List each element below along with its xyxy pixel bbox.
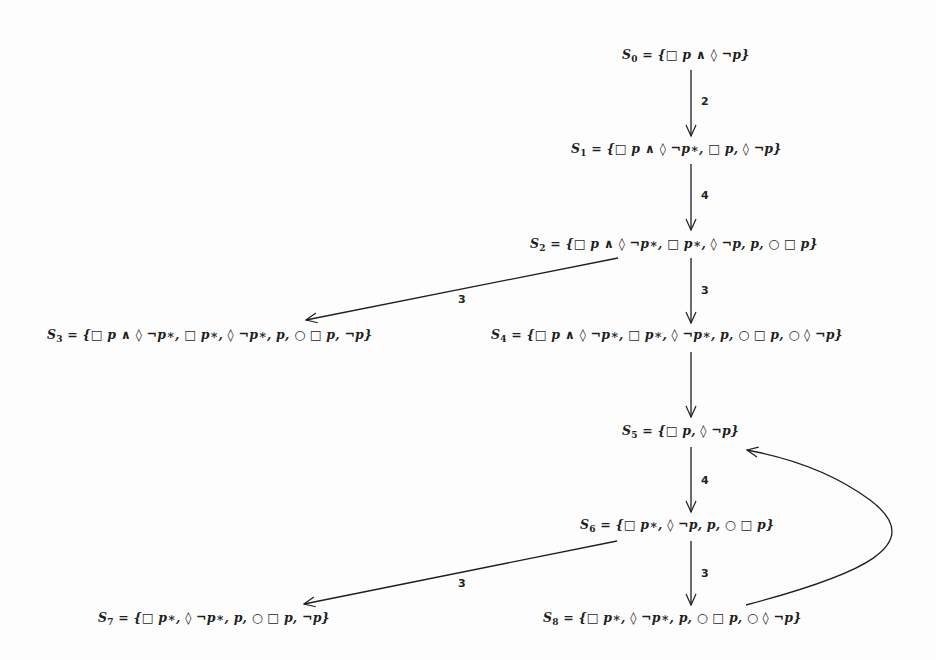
state-s1: S1 = {□ p ∧ ◊ ¬p∗, □ p, ◊ ¬p} xyxy=(571,141,782,161)
state-name: S xyxy=(622,47,631,62)
state-name: S xyxy=(98,610,107,625)
state-s3: S3 = {□ p ∧ ◊ ¬p∗, □ p∗, ◊ ¬p∗, p, ○ □ p… xyxy=(47,327,372,347)
edge-label-s6-s7: 3 xyxy=(458,577,466,590)
state-s5: S5 = {□ p, ◊ ¬p} xyxy=(622,423,739,443)
edge-s2-s3 xyxy=(306,258,618,320)
edge-label-s0-s1: 2 xyxy=(701,95,709,108)
state-s0: S0 = {□ p ∧ ◊ ¬p} xyxy=(622,47,749,67)
edge-label-s1-s2: 4 xyxy=(701,189,709,202)
state-name: S xyxy=(622,423,631,438)
state-formula: = {□ p ∧ ◊ ¬p} xyxy=(638,47,750,62)
edge-label-s6-s8: 3 xyxy=(701,567,709,580)
state-name: S xyxy=(47,327,56,342)
edge-label-s2-s4: 3 xyxy=(701,284,709,297)
state-formula: = {□ p ∧ ◊ ¬p∗, □ p∗, ◊ ¬p∗, p, ○ □ p, ○… xyxy=(507,327,843,342)
state-s4: S4 = {□ p ∧ ◊ ¬p∗, □ p∗, ◊ ¬p∗, p, ○ □ p… xyxy=(491,327,843,347)
state-s6: S6 = {□ p∗, ◊ ¬p, p, ○ □ p} xyxy=(580,517,774,537)
state-s8: S8 = {□ p∗, ◊ ¬p∗, p, ○ □ p, ○ ◊ ¬p} xyxy=(543,610,801,630)
edge-label-s2-s3: 3 xyxy=(458,293,466,306)
state-formula: = {□ p∗, ◊ ¬p∗, p, ○ □ p, ¬p} xyxy=(114,610,330,625)
state-formula: = {□ p ∧ ◊ ¬p∗, □ p, ◊ ¬p} xyxy=(587,141,782,156)
edge-s6-s7 xyxy=(304,541,617,604)
diagram-canvas: S0 = {□ p ∧ ◊ ¬p} S1 = {□ p ∧ ◊ ¬p∗, □ p… xyxy=(0,0,936,660)
edge-label-s5-s6: 4 xyxy=(701,474,709,487)
state-formula: = {□ p ∧ ◊ ¬p∗, □ p∗, ◊ ¬p∗, p, ○ □ p, ¬… xyxy=(63,327,373,342)
state-s2: S2 = {□ p ∧ ◊ ¬p∗, □ p∗, ◊ ¬p, p, ○ □ p} xyxy=(530,236,818,256)
state-formula: = {□ p, ◊ ¬p} xyxy=(638,423,739,438)
state-s7: S7 = {□ p∗, ◊ ¬p∗, p, ○ □ p, ¬p} xyxy=(98,610,330,630)
state-formula: = {□ p∗, ◊ ¬p, p, ○ □ p} xyxy=(596,517,775,532)
state-name: S xyxy=(580,517,589,532)
state-name: S xyxy=(530,236,539,251)
state-name: S xyxy=(543,610,552,625)
state-formula: = {□ p ∧ ◊ ¬p∗, □ p∗, ◊ ¬p, p, ○ □ p} xyxy=(546,236,818,251)
state-name: S xyxy=(571,141,580,156)
state-formula: = {□ p∗, ◊ ¬p∗, p, ○ □ p, ○ ◊ ¬p} xyxy=(559,610,802,625)
state-name: S xyxy=(491,327,500,342)
